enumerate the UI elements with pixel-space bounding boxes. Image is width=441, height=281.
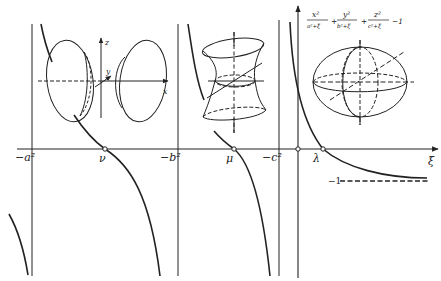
svg-text:y²: y² [342, 10, 350, 19]
svg-text:b²+ξ: b²+ξ [337, 23, 351, 30]
hyperboloid-two-sheets [38, 37, 171, 125]
svg-text:a²+ξ: a²+ξ [307, 23, 321, 30]
root-nu-marker [103, 147, 107, 151]
formula: x² a²+ξ + y² b²+ξ + z² c²+ξ −1 [307, 10, 403, 30]
curve-branch-mu [188, 24, 270, 276]
svg-text:c²+ξ: c²+ξ [368, 23, 382, 30]
label-inset-z: z [104, 38, 109, 47]
svg-text:x²: x² [312, 10, 319, 19]
label-lambda: λ [312, 152, 320, 165]
label-mu: μ [226, 152, 233, 165]
label-minus-c2: −c² [262, 151, 282, 164]
root-lambda-marker [321, 147, 325, 151]
svg-text:+: + [361, 17, 367, 26]
curve-branch-left [9, 214, 28, 275]
label-nu: ν [99, 152, 106, 165]
label-minus-b2: −b² [160, 151, 181, 164]
label-inset-y: y [105, 67, 111, 76]
label-minus-a2: −a² [15, 151, 35, 164]
svg-text:z²: z² [373, 10, 381, 19]
hyperboloid-one-sheet [201, 32, 266, 133]
ellipsoid [313, 40, 414, 125]
svg-text:−1: −1 [392, 17, 403, 26]
curve-branch-lambda [290, 22, 427, 178]
label-inset-x: x [163, 87, 168, 96]
label-xi: ξ [428, 155, 435, 168]
confocal-quadrics-diagram: −a² −b² −c² ν μ λ ξ −1 x y z x² a²+ξ + y… [0, 0, 441, 281]
label-minus-one: −1 [328, 176, 341, 186]
origin-marker [296, 147, 300, 151]
root-mu-marker [232, 147, 236, 151]
